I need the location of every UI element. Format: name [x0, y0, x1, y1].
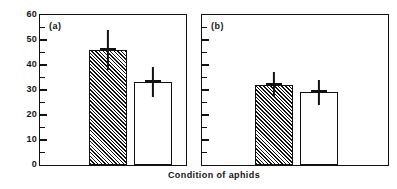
y-tick-label: 20 [27, 110, 37, 119]
panel-a-plot-area [40, 15, 186, 165]
panel-b: (b) [201, 14, 389, 166]
error-bar-cap [100, 48, 116, 50]
error-bar [107, 30, 109, 70]
error-bar-cap [311, 90, 327, 92]
y-tick-label: 60 [27, 10, 37, 19]
y-axis-tick-labels: 6050403020100 [17, 0, 37, 189]
y-tick-label: 40 [27, 60, 37, 69]
error-bar-cap [145, 80, 161, 82]
panel-b-plot-area [202, 15, 388, 165]
y-tick-label: 0 [32, 160, 37, 169]
error-bar [318, 80, 320, 105]
panel-a: (a) [39, 14, 187, 166]
error-bar-cap [266, 83, 282, 85]
y-tick-label: 30 [27, 85, 37, 94]
y-tick-label: 50 [27, 35, 37, 44]
y-tick-label: 10 [27, 135, 37, 144]
x-axis-label: Condition of aphids [39, 170, 389, 180]
error-bar [152, 67, 154, 97]
figure-container: % Aphids dropping 6050403020100 (a) (b) … [0, 0, 397, 189]
error-bar [273, 72, 275, 97]
